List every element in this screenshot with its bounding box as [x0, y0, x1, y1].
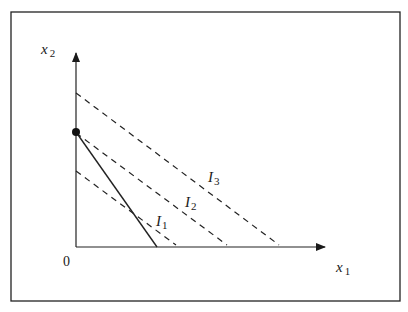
origin-label: 0: [63, 254, 70, 269]
label-I3: I3: [207, 169, 220, 187]
y-axis-label: x2: [40, 41, 55, 59]
budget-line: [76, 132, 157, 247]
indifference-curve-3: [76, 93, 279, 245]
x-axis-label: x1: [335, 259, 350, 277]
diagram-canvas: x2 x1 0 I3 I2 I1: [0, 0, 408, 312]
corner-solution-point: [72, 128, 80, 136]
label-I1: I1: [155, 213, 168, 231]
indifference-curve-1: [76, 171, 176, 245]
indifference-curve-2: [76, 133, 227, 245]
label-I2: I2: [184, 194, 197, 212]
